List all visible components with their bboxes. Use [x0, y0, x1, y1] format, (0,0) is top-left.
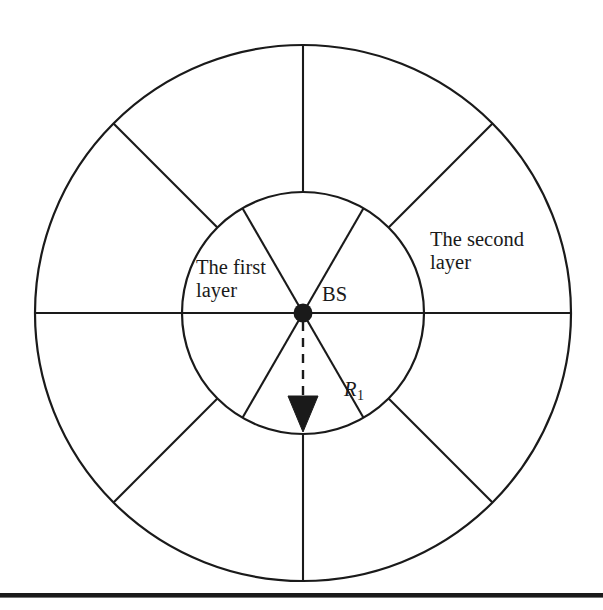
outer-divider-315	[389, 399, 493, 503]
outer-divider-225	[114, 399, 218, 503]
label-first-layer: The first layer	[196, 256, 308, 302]
two-layer-cell-diagram	[0, 0, 603, 610]
radius-arrow-head	[288, 396, 318, 432]
bottom-rule	[0, 593, 603, 598]
label-base-station: BS	[322, 283, 347, 306]
radius-subscript: 1	[357, 388, 364, 403]
figure-root: The first layer The second layer BS R1	[0, 0, 603, 610]
bs-dot-icon	[294, 304, 313, 323]
radius-symbol: R	[344, 378, 357, 400]
outer-divider-135	[114, 124, 218, 228]
label-inner-radius: R1	[344, 378, 364, 404]
label-second-layer: The second layer	[430, 228, 550, 274]
outer-divider-45	[389, 124, 493, 228]
